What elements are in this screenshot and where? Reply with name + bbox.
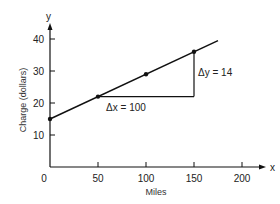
y-ticks: 10 20 30 40 (33, 34, 55, 141)
chart: y x 10 20 30 40 0 50 100 150 200 Miles C… (0, 0, 280, 204)
data-point (144, 72, 148, 76)
x-tick-label: 150 (186, 173, 203, 184)
y-axis-letter: y (46, 11, 51, 22)
delta-x-label: Δx = 100 (106, 102, 146, 113)
x-tick-label: 0 (41, 173, 47, 184)
x-ticks: 0 50 100 150 200 (41, 162, 251, 184)
data-point (96, 94, 100, 98)
delta-y-label: Δy = 14 (198, 67, 233, 78)
data-point (192, 50, 196, 54)
y-axis-arrow-icon (48, 23, 53, 30)
x-axis-letter: x (270, 162, 275, 173)
x-tick-label: 50 (92, 173, 104, 184)
x-axis-title: Miles (145, 187, 167, 197)
y-tick-label: 20 (33, 98, 45, 109)
y-tick-label: 30 (33, 66, 45, 77)
y-tick-label: 10 (33, 130, 45, 141)
data-point (48, 117, 52, 121)
y-tick-label: 40 (33, 34, 45, 45)
y-axis-title: Charge (dollars) (18, 68, 28, 133)
x-tick-label: 200 (234, 173, 251, 184)
x-tick-label: 100 (138, 173, 155, 184)
x-axis-arrow-icon (259, 165, 266, 170)
